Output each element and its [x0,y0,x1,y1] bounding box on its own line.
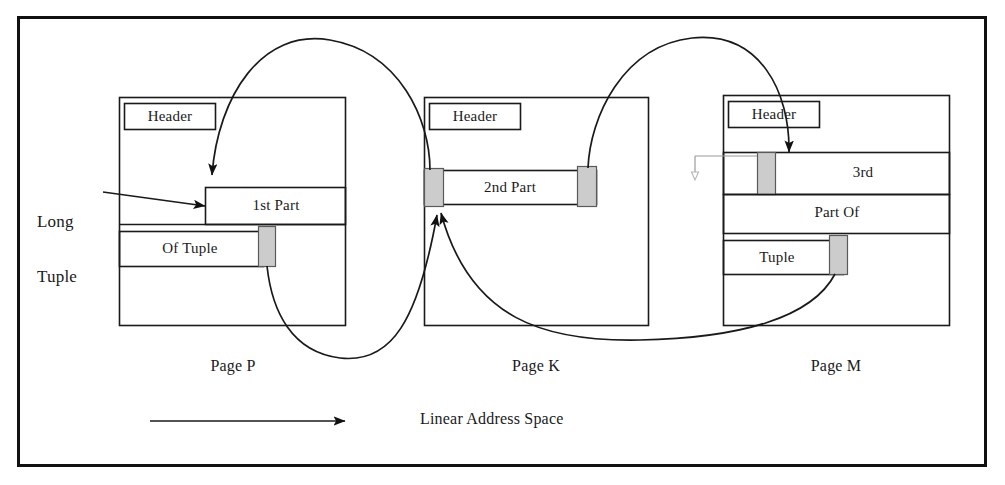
page-k-second-part-label: 2nd Part [443,179,577,195]
p-to-k-pointer [267,215,437,359]
page-p-header-label: Header [124,108,216,124]
page-m-third-part-label: 3rd [776,164,950,180]
page-k-header-label: Header [429,108,521,124]
page-p-of-tuple-label: Of Tuple [120,240,260,256]
k-to-p-pointer [212,39,430,175]
page-m-tuple-label: Tuple [724,249,830,265]
page-k-left-marker [425,169,444,207]
page-k-right-marker [578,167,597,207]
figure-canvas: Long Tuple Header 1st Part Of Tuple Page… [0,0,1005,485]
long-tuple-label-line1: Long [37,213,107,231]
page-p-caption: Page P [172,357,294,374]
page-p-first-part-label: 1st Part [206,197,346,213]
page-p-of-tuple-marker [259,227,276,267]
long-tuple-pointer [103,192,205,206]
m-to-k-pointer [441,213,835,340]
page-k-group [425,98,649,326]
page-m-caption: Page M [775,357,897,374]
k-to-m-pointer [588,37,789,168]
long-tuple-label: Long Tuple [37,176,107,323]
page-m-faint-tick-icon [692,172,699,180]
page-m-header-label: Header [728,106,820,122]
linear-address-space-caption: Linear Address Space [420,410,564,427]
page-k-box [425,98,649,326]
page-m-faint-mark [695,156,757,172]
page-m-third-part-marker [758,153,776,195]
page-m-tuple-marker [830,236,848,275]
long-tuple-label-line2: Tuple [37,268,107,286]
page-k-caption: Page K [475,357,597,374]
page-m-part-of-label: Part Of [724,204,950,220]
